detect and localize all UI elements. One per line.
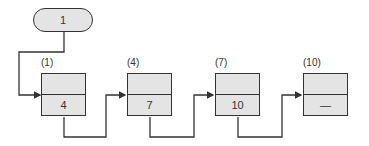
node-label: (1) xyxy=(41,57,53,68)
list-node: 7 xyxy=(127,73,172,116)
node-value: 7 xyxy=(128,95,171,115)
list-node: — xyxy=(303,73,348,116)
node-value: — xyxy=(304,95,347,115)
start-value: 1 xyxy=(60,14,66,26)
node-pointer-cell xyxy=(128,74,171,95)
node-pointer-cell xyxy=(216,74,259,95)
node-pointer-cell xyxy=(304,74,347,95)
start-node: 1 xyxy=(33,8,93,32)
node-pointer-cell xyxy=(42,74,85,95)
node-label: (7) xyxy=(215,57,227,68)
node-label: (10) xyxy=(303,57,321,68)
list-node: 10 xyxy=(215,73,260,116)
list-node: 4 xyxy=(41,73,86,116)
node-value: 10 xyxy=(216,95,259,115)
node-value: 4 xyxy=(42,95,85,115)
node-label: (4) xyxy=(127,57,139,68)
